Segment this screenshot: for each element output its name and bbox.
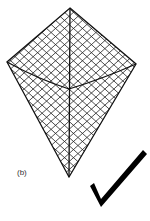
figure-label: (b)	[17, 168, 27, 177]
checkmark-icon	[90, 150, 147, 207]
kite-grid-mesh	[0, 0, 150, 221]
kite-spine	[69, 8, 70, 177]
kite-diagram	[0, 0, 150, 221]
